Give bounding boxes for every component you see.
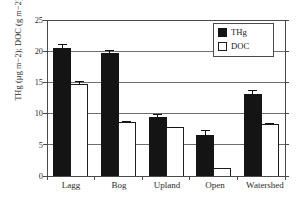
legend-label-thg: THg <box>231 28 247 37</box>
y-tick-label-0: 0 <box>39 173 43 181</box>
y-tick-label-25: 25 <box>35 17 43 25</box>
legend-entry-thg: THg <box>218 28 247 37</box>
legend-entry-doc: DOC <box>218 42 249 51</box>
bar-thg-lagg <box>54 48 71 176</box>
bar-thg-open <box>197 135 214 176</box>
bar-series-group <box>54 48 278 176</box>
legend-swatch-filled-square-icon <box>218 28 227 37</box>
y-tick-label-5: 5 <box>39 142 43 150</box>
x-tick-label-open: Open <box>191 181 239 190</box>
bar-thg-upland <box>149 118 166 176</box>
legend-swatch-open-square-icon <box>218 42 227 51</box>
x-tick-label-upland: Upland <box>143 181 191 190</box>
y-tick-label-20: 20 <box>35 48 43 56</box>
x-tick-label-watershed: Watershed <box>237 181 293 190</box>
bar-thg-watershed <box>244 94 261 176</box>
y-tick-label-15: 15 <box>35 79 43 87</box>
chart-figure: THg (µg m−2); DOC (g m−2) 25 20 15 10 5 … <box>0 0 298 206</box>
bar-doc-open <box>214 169 231 176</box>
bar-doc-upland <box>166 128 183 176</box>
y-axis-tick-labels: 25 20 15 10 5 0 <box>22 0 43 206</box>
bar-doc-bog <box>118 122 135 176</box>
bar-doc-lagg <box>71 85 88 176</box>
y-tick-label-10: 10 <box>35 110 43 118</box>
bar-thg-bog <box>101 54 118 176</box>
bar-doc-watershed <box>261 124 278 176</box>
legend-label-doc: DOC <box>231 42 249 51</box>
x-tick-label-bog: Bog <box>95 181 143 190</box>
legend: THg DOC <box>213 23 274 57</box>
x-tick-label-lagg: Lagg <box>47 181 95 190</box>
